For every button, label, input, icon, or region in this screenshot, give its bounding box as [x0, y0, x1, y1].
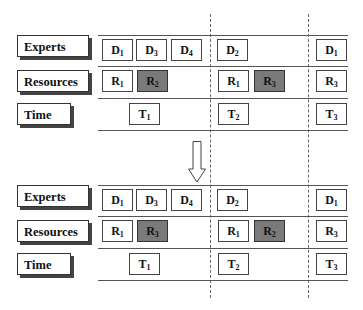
expert-cell: D2 — [217, 189, 248, 211]
time-label: Time — [17, 253, 71, 275]
time-cell: T3 — [316, 253, 347, 275]
expert-cell: D4 — [171, 39, 202, 61]
down-arrow-icon — [188, 141, 206, 183]
expert-cell: D1 — [316, 189, 347, 211]
period-separator-2 — [308, 14, 309, 298]
resource-cell: R1 — [218, 70, 249, 92]
resources-label: Resources — [17, 70, 89, 92]
expert-cell: D1 — [102, 189, 133, 211]
period-separator-1 — [210, 14, 211, 298]
time-label: Time — [17, 103, 71, 125]
resource-cell: R3 — [316, 220, 347, 242]
experts-label: Experts — [17, 35, 89, 57]
row-line — [98, 66, 348, 67]
expert-cell: D4 — [171, 189, 202, 211]
row-line — [98, 98, 348, 99]
time-cell: T1 — [129, 253, 160, 275]
time-cell: T1 — [129, 103, 160, 125]
resource-cell-highlighted: R2 — [137, 70, 168, 92]
time-cell: T3 — [316, 103, 347, 125]
time-cell: T2 — [218, 253, 249, 275]
time-cell: T2 — [218, 103, 249, 125]
expert-cell: D2 — [217, 39, 248, 61]
resource-cell-highlighted: R3 — [137, 220, 168, 242]
resources-label: Resources — [17, 220, 89, 242]
resource-cell-highlighted: R3 — [254, 70, 285, 92]
resource-cell: R1 — [218, 220, 249, 242]
resource-cell: R1 — [102, 70, 133, 92]
resource-cell: R1 — [102, 220, 133, 242]
expert-cell: D3 — [136, 39, 167, 61]
row-line — [98, 216, 348, 217]
expert-cell: D1 — [316, 39, 347, 61]
row-line — [98, 35, 348, 36]
resource-cell-highlighted: R2 — [254, 220, 285, 242]
row-line — [98, 248, 348, 249]
row-line — [98, 130, 348, 131]
row-line — [98, 185, 348, 186]
experts-label: Experts — [17, 185, 89, 207]
expert-cell: D3 — [136, 189, 167, 211]
expert-cell: D1 — [102, 39, 133, 61]
row-line — [98, 280, 348, 281]
resource-cell: R3 — [316, 70, 347, 92]
